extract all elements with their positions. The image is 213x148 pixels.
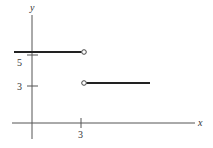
lower-open-endpoint	[82, 81, 87, 86]
upper-open-endpoint	[82, 50, 87, 55]
y-tick-label-3: 3	[17, 81, 22, 92]
y-axis-label: y	[29, 2, 35, 13]
piecewise-graph: x y 3 5 3	[0, 0, 213, 148]
y-tick-label-5: 5	[17, 57, 22, 68]
x-axis-label: x	[197, 117, 203, 128]
x-tick-label-3: 3	[78, 129, 83, 140]
